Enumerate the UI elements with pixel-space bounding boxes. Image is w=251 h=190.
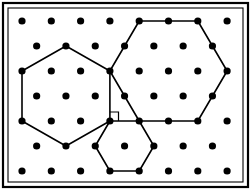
lattice-dot — [48, 117, 55, 124]
lattice-dot — [165, 117, 172, 124]
lattice-dot — [121, 142, 128, 149]
lattice-dot — [165, 67, 172, 74]
lattice-dot — [106, 117, 113, 124]
lattice-dot — [224, 67, 231, 74]
lattice-dot — [106, 17, 113, 24]
lattice-dot — [48, 67, 55, 74]
lattice-dot — [33, 142, 40, 149]
lattice-dot — [224, 117, 231, 124]
lattice-dot — [18, 17, 25, 24]
lattice-dot — [33, 92, 40, 99]
lattice-dot — [150, 92, 157, 99]
figure-container — [0, 0, 251, 190]
lattice-dot — [165, 17, 172, 24]
lattice-dot — [62, 142, 69, 149]
lattice-dot — [209, 92, 216, 99]
lattice-dot — [209, 142, 216, 149]
lattice-dot — [136, 117, 143, 124]
lattice-dot — [224, 17, 231, 24]
lattice-dot — [194, 167, 201, 174]
lattice-dot — [121, 92, 128, 99]
lattice-dot — [180, 142, 187, 149]
lattice-dot — [165, 167, 172, 174]
lattice-dot — [136, 167, 143, 174]
lattice-dot — [77, 67, 84, 74]
lattice-dot — [150, 42, 157, 49]
lattice-hexagon-diagram — [0, 0, 251, 190]
lattice-dot — [194, 67, 201, 74]
lattice-dot — [136, 67, 143, 74]
lattice-dot — [77, 167, 84, 174]
lattice-dot — [62, 42, 69, 49]
lattice-dot — [106, 67, 113, 74]
lattice-dot — [77, 117, 84, 124]
lattice-dot — [92, 42, 99, 49]
lattice-dot — [48, 17, 55, 24]
lattice-dot — [136, 17, 143, 24]
lattice-dot — [224, 167, 231, 174]
lattice-dot — [194, 117, 201, 124]
lattice-dot — [180, 92, 187, 99]
lattice-dot — [194, 17, 201, 24]
lattice-dot — [18, 67, 25, 74]
lattice-dot — [106, 167, 113, 174]
lattice-dot — [33, 42, 40, 49]
lattice-dot — [18, 167, 25, 174]
lattice-dot — [92, 142, 99, 149]
lattice-dot — [121, 42, 128, 49]
lattice-dot — [62, 92, 69, 99]
lattice-dot — [180, 42, 187, 49]
lattice-dot — [77, 17, 84, 24]
lattice-dot — [48, 167, 55, 174]
lattice-dot — [92, 92, 99, 99]
lattice-dot — [209, 42, 216, 49]
lattice-dot — [18, 117, 25, 124]
lattice-dot — [150, 142, 157, 149]
